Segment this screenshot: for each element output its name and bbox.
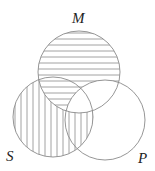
venn-diagram: M S P bbox=[0, 0, 155, 171]
label-s: S bbox=[6, 148, 14, 164]
label-m: M bbox=[71, 10, 86, 26]
label-p: P bbox=[137, 150, 147, 166]
